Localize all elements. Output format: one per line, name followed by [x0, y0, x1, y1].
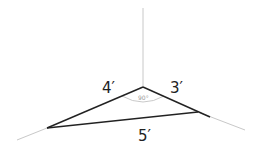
- left-axis-extension: [17, 128, 47, 140]
- label-side-3: 3′: [170, 81, 183, 96]
- triangle-diagram: [0, 0, 259, 159]
- label-angle-90: 90°: [138, 95, 149, 101]
- label-hypotenuse-5: 5′: [138, 129, 151, 144]
- label-side-4: 4′: [102, 81, 115, 96]
- hypotenuse-5: [47, 112, 198, 128]
- side-4: [47, 87, 143, 128]
